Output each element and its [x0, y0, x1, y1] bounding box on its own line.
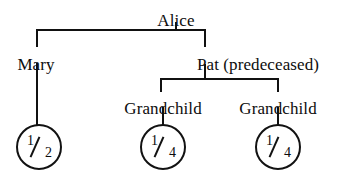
connector-mary-drop-upper [36, 29, 38, 47]
share-mary: 12 [16, 124, 62, 170]
fraction-1-over-4: 14 [150, 134, 176, 160]
connector-alice-bar [37, 29, 206, 31]
fraction-1-over-2: 12 [26, 134, 52, 160]
node-label-pat-predeceased: Pat (predeceased) [197, 56, 319, 73]
fraction-1-over-4: 14 [265, 134, 291, 160]
fraction-denominator: 2 [45, 146, 52, 160]
connector-pat-bar [161, 78, 279, 80]
fraction-denominator: 4 [169, 146, 176, 160]
connector-grandchild-left-drop-upper [160, 78, 162, 92]
connector-pat-stem [204, 64, 206, 79]
connector-pat-drop-upper [204, 29, 206, 47]
fraction-numerator: 1 [27, 134, 34, 148]
connector-grandchild-right-drop-upper [277, 78, 279, 92]
fraction-numerator: 1 [151, 134, 158, 148]
connector-grandchild-right-drop-lower [277, 107, 279, 125]
connector-grandchild-left-drop-lower [162, 107, 164, 125]
inheritance-tree-diagram: Alice Mary Pat (predeceased) Grandchild … [0, 0, 337, 177]
connector-mary-drop-lower [36, 63, 38, 125]
share-grandchild-left: 14 [140, 124, 186, 170]
fraction-denominator: 4 [284, 146, 291, 160]
share-grandchild-right: 14 [255, 124, 301, 170]
fraction-numerator: 1 [266, 134, 273, 148]
